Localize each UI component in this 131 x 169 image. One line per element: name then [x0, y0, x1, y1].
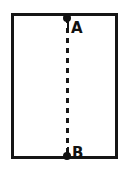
figure-canvas: A B: [0, 0, 131, 169]
point-label-b: B: [72, 146, 83, 161]
rectangle-outline: [11, 13, 118, 159]
label-tick-b: [67, 147, 69, 155]
label-tick-a: [67, 22, 69, 29]
dashed-path-AB: [66, 18, 69, 156]
point-label-a: A: [71, 21, 83, 36]
point-marker-a: [63, 14, 71, 22]
